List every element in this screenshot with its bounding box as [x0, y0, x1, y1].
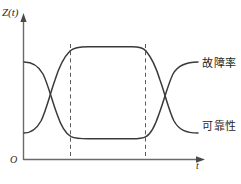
- y-axis-label: Z(t): [2, 7, 19, 18]
- bathtub-curve-plot: [0, 0, 241, 184]
- x-axis-label: t: [196, 161, 199, 171]
- reliability-label: 可靠性: [202, 121, 237, 132]
- y-axis-arrowhead: [20, 13, 26, 22]
- reliability-curve: [24, 47, 198, 133]
- failure-rate-label: 故障率: [202, 58, 237, 69]
- figure-canvas: Z(t) t O 故障率 可靠性: [0, 0, 241, 184]
- failure-rate-curve: [24, 62, 198, 139]
- origin-label: O: [10, 155, 17, 165]
